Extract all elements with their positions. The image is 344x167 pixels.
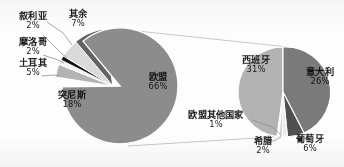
label-spain: 西班牙 31% <box>230 55 282 74</box>
label-syria: 叙利亚 2% <box>2 11 64 30</box>
pie-of-pie-chart: 叙利亚 2% 其余 7% 摩洛哥 2% 土耳其 5% 突尼斯 18% 欧盟 66… <box>0 0 344 167</box>
label-italy: 意大利 26% <box>296 67 344 86</box>
label-turkey-pct: 5% <box>2 68 64 77</box>
label-portugal: 葡萄牙 6% <box>286 134 334 153</box>
label-portugal-pct: 6% <box>286 144 334 153</box>
label-others-pct: 7% <box>56 19 100 28</box>
label-others: 其余 7% <box>56 9 100 28</box>
label-turkey: 土耳其 5% <box>2 58 64 77</box>
label-eu-other-pct: 1% <box>178 120 254 129</box>
label-tunisia: 突尼斯 18% <box>44 90 100 109</box>
label-italy-pct: 26% <box>296 77 344 86</box>
label-syria-pct: 2% <box>2 21 64 30</box>
label-eu-other: 欧盟其他国家 1% <box>178 110 254 129</box>
label-eu: 欧盟 66% <box>132 72 184 91</box>
label-greece: 希腊 2% <box>243 136 283 155</box>
label-morocco-pct: 2% <box>2 47 64 56</box>
label-tunisia-pct: 18% <box>44 100 100 109</box>
label-eu-pct: 66% <box>132 82 184 91</box>
label-spain-pct: 31% <box>230 65 282 74</box>
label-greece-pct: 2% <box>243 146 283 155</box>
label-morocco: 摩洛哥 2% <box>2 37 64 56</box>
